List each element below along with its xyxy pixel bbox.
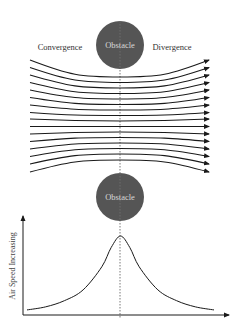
- divergence-label: Divergence: [152, 42, 191, 52]
- streamline: [30, 138, 209, 142]
- airflow-diagram: Obstacle Convergence Divergence Obstacle…: [0, 0, 240, 334]
- streamline: [30, 160, 209, 172]
- streamline: [30, 105, 209, 110]
- streamline: [30, 154, 209, 164]
- streamline: [30, 113, 209, 116]
- obstacle-bottom-label: Obstacle: [105, 192, 135, 202]
- speed-chart: Air Speed Increasing: [8, 216, 229, 315]
- y-axis-label: Air Speed Increasing: [8, 232, 17, 300]
- streamline: [30, 132, 209, 134]
- convergence-label: Convergence: [38, 42, 83, 52]
- streamlines: [30, 60, 209, 172]
- obstacle-top-label: Obstacle: [105, 40, 135, 50]
- streamline: [30, 149, 209, 157]
- obstacle-bottom: Obstacle: [96, 173, 144, 221]
- streamline: [30, 90, 209, 99]
- air-speed-curve: [27, 236, 214, 310]
- obstacle-top: Obstacle: [96, 21, 144, 69]
- streamline: [30, 119, 209, 121]
